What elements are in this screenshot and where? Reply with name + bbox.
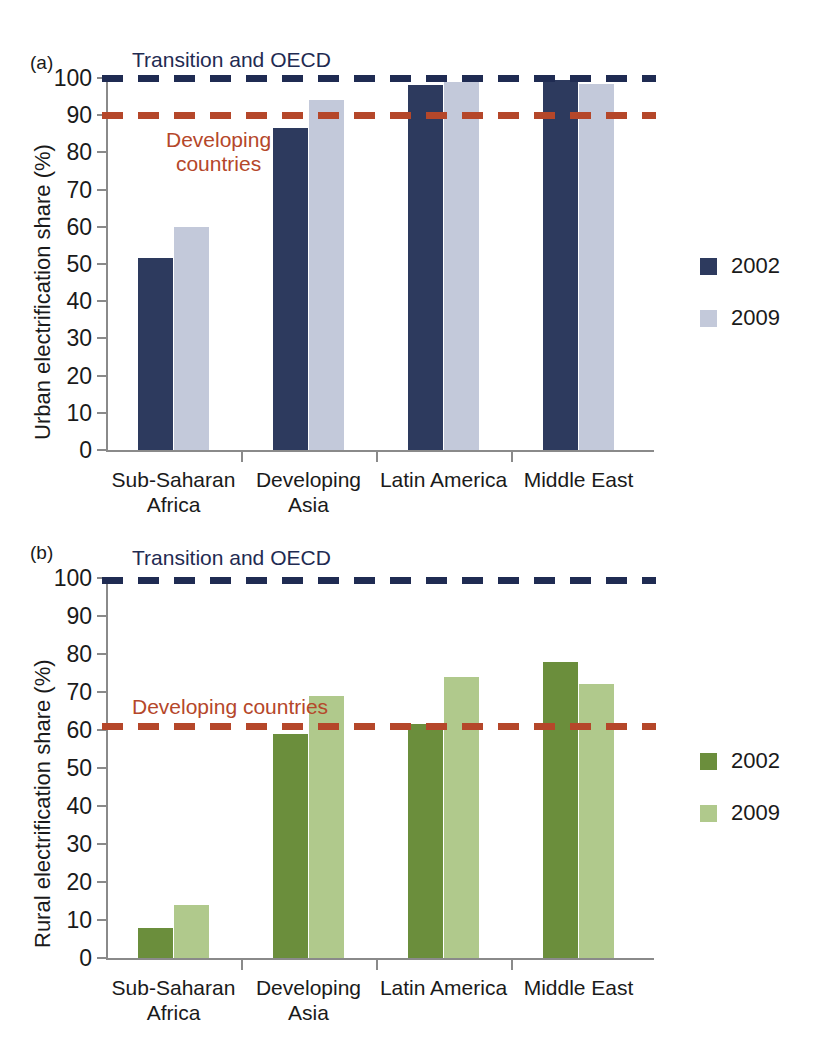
y-tick-label-20: 20 bbox=[66, 362, 92, 389]
y-tick-label-30: 30 bbox=[66, 831, 92, 858]
y-tick-20 bbox=[97, 375, 106, 377]
bar-sub-saharan-africa-2009 bbox=[174, 227, 210, 450]
bar-latin-america-2009 bbox=[444, 82, 480, 450]
legend-item-2009[interactable]: 2009 bbox=[700, 800, 780, 826]
annotation-line: Developing countries bbox=[132, 695, 328, 719]
y-tick-10 bbox=[97, 919, 106, 921]
panel-a-x-axis bbox=[106, 450, 654, 452]
y-tick-0 bbox=[97, 957, 106, 959]
category-label-sub-saharan-africa: Sub-SaharanAfrica bbox=[106, 468, 241, 518]
x-tick-1 bbox=[241, 958, 243, 970]
panel-rural-electrification: (b) Rural electrification share (%) 0102… bbox=[0, 518, 821, 1037]
bar-middle-east-2002 bbox=[543, 80, 579, 450]
reference-line-transition-and-oecd bbox=[102, 75, 656, 82]
y-tick-label-100: 100 bbox=[54, 565, 92, 592]
y-tick-60 bbox=[97, 226, 106, 228]
y-tick-90 bbox=[97, 615, 106, 617]
annotation-line: Transition and OECD bbox=[132, 546, 331, 570]
bar-developing-asia-2002 bbox=[273, 734, 309, 958]
y-tick-50 bbox=[97, 263, 106, 265]
annotation-transition-and-oecd: Transition and OECD bbox=[132, 48, 331, 72]
legend-swatch-icon bbox=[700, 805, 717, 822]
y-tick-label-10: 10 bbox=[66, 907, 92, 934]
x-tick-2 bbox=[376, 958, 378, 970]
legend-item-2009[interactable]: 2009 bbox=[700, 305, 780, 331]
y-tick-label-40: 40 bbox=[66, 288, 92, 315]
y-tick-label-40: 40 bbox=[66, 793, 92, 820]
category-label-line: Sub-Saharan bbox=[106, 976, 241, 1001]
legend-label: 2009 bbox=[731, 800, 780, 826]
y-tick-label-80: 80 bbox=[66, 641, 92, 668]
y-tick-label-90: 90 bbox=[66, 102, 92, 129]
category-label-line: Sub-Saharan bbox=[106, 468, 241, 493]
y-tick-0 bbox=[97, 449, 106, 451]
category-label-line: Middle East bbox=[511, 468, 646, 493]
legend-swatch-icon bbox=[700, 258, 717, 275]
y-tick-label-90: 90 bbox=[66, 603, 92, 630]
panel-b-x-axis bbox=[106, 958, 654, 960]
annotation-transition-and-oecd: Transition and OECD bbox=[132, 546, 331, 570]
category-label-line: Africa bbox=[106, 493, 241, 518]
bar-sub-saharan-africa-2009 bbox=[174, 905, 210, 958]
legend-item-2002[interactable]: 2002 bbox=[700, 253, 780, 279]
category-label-latin-america: Latin America bbox=[376, 468, 511, 493]
reference-line-dashes bbox=[102, 112, 656, 119]
bar-latin-america-2002 bbox=[408, 85, 444, 450]
panel-a-legend: 20022009 bbox=[700, 253, 780, 357]
bar-developing-asia-2002 bbox=[273, 128, 309, 450]
y-tick-label-0: 0 bbox=[79, 437, 92, 464]
y-tick-label-30: 30 bbox=[66, 325, 92, 352]
reference-line-dashes bbox=[102, 75, 656, 82]
legend-label: 2002 bbox=[731, 253, 780, 279]
category-label-line: Africa bbox=[106, 1001, 241, 1026]
reference-line-dashes bbox=[102, 577, 656, 584]
y-tick-70 bbox=[97, 189, 106, 191]
panel-a-plot-area: 0102030405060708090100Sub-SaharanAfricaD… bbox=[106, 78, 646, 450]
bar-developing-asia-2009 bbox=[309, 696, 345, 958]
y-tick-10 bbox=[97, 412, 106, 414]
y-tick-label-50: 50 bbox=[66, 251, 92, 278]
x-tick-1 bbox=[241, 450, 243, 462]
reference-line-dashes bbox=[102, 723, 656, 730]
panel-b-y-axis-label: Rural electrification share (%) bbox=[30, 659, 56, 948]
y-tick-label-60: 60 bbox=[66, 717, 92, 744]
y-tick-30 bbox=[97, 337, 106, 339]
category-label-middle-east: Middle East bbox=[511, 976, 646, 1001]
annotation-developing-countries: Developingcountries bbox=[166, 128, 271, 175]
x-tick-3 bbox=[511, 450, 513, 462]
category-label-middle-east: Middle East bbox=[511, 468, 646, 493]
y-tick-label-20: 20 bbox=[66, 869, 92, 896]
reference-line-transition-and-oecd bbox=[102, 577, 656, 584]
y-tick-label-60: 60 bbox=[66, 213, 92, 240]
category-label-line: Latin America bbox=[376, 976, 511, 1001]
y-tick-70 bbox=[97, 691, 106, 693]
panel-b-legend: 20022009 bbox=[700, 748, 780, 852]
panel-a-y-axis-label: Urban electrification share (%) bbox=[30, 144, 56, 440]
bar-latin-america-2009 bbox=[444, 677, 480, 958]
bar-sub-saharan-africa-2002 bbox=[138, 928, 174, 958]
legend-item-2002[interactable]: 2002 bbox=[700, 748, 780, 774]
y-tick-30 bbox=[97, 843, 106, 845]
category-label-developing-asia: DevelopingAsia bbox=[241, 976, 376, 1026]
category-label-line: Asia bbox=[241, 493, 376, 518]
y-tick-label-70: 70 bbox=[66, 679, 92, 706]
panel-b-tag: (b) bbox=[30, 542, 53, 564]
annotation-line: countries bbox=[166, 152, 271, 176]
x-tick-2 bbox=[376, 450, 378, 462]
panel-a-tag: (a) bbox=[30, 52, 53, 74]
annotation-developing-countries: Developing countries bbox=[132, 695, 328, 719]
bar-developing-asia-2009 bbox=[309, 100, 345, 450]
reference-line-developing-countries bbox=[102, 723, 656, 730]
panel-b-y-axis bbox=[106, 578, 108, 958]
panel-urban-electrification: (a) Urban electrification share (%) 0102… bbox=[0, 0, 821, 518]
bar-latin-america-2002 bbox=[408, 724, 444, 958]
y-tick-label-10: 10 bbox=[66, 399, 92, 426]
y-tick-label-50: 50 bbox=[66, 755, 92, 782]
y-tick-80 bbox=[97, 151, 106, 153]
category-label-developing-asia: DevelopingAsia bbox=[241, 468, 376, 518]
category-label-sub-saharan-africa: Sub-SaharanAfrica bbox=[106, 976, 241, 1026]
category-label-latin-america: Latin America bbox=[376, 976, 511, 1001]
y-tick-label-100: 100 bbox=[54, 65, 92, 92]
category-label-line: Middle East bbox=[511, 976, 646, 1001]
panel-a-y-axis bbox=[106, 78, 108, 450]
